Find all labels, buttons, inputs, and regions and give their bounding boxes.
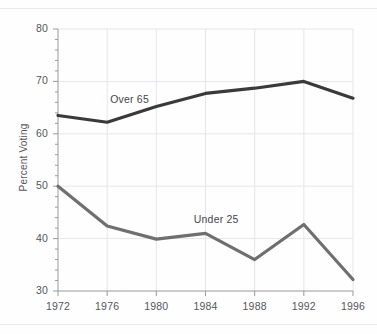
y-tick-label: 40 xyxy=(22,232,48,244)
chart-figure: Percent Voting 304050607080 197219761980… xyxy=(0,0,377,334)
series-inline-label: Under 25 xyxy=(194,213,239,225)
x-tick-label: 1980 xyxy=(136,300,176,312)
x-axis-major-ticks xyxy=(58,291,353,296)
y-tick-label: 80 xyxy=(22,22,48,34)
y-axis-major-ticks xyxy=(53,29,58,291)
y-tick-label: 60 xyxy=(22,127,48,139)
x-tick-label: 1992 xyxy=(284,300,324,312)
y-tick-label: 70 xyxy=(22,74,48,86)
x-tick-label: 1996 xyxy=(333,300,373,312)
plot-area xyxy=(0,0,377,334)
x-tick-label: 1972 xyxy=(38,300,78,312)
series-inline-label: Over 65 xyxy=(110,93,149,105)
x-tick-label: 1976 xyxy=(87,300,127,312)
vertical-gridlines xyxy=(107,29,353,291)
y-tick-label: 30 xyxy=(22,284,48,296)
x-tick-label: 1984 xyxy=(186,300,226,312)
y-tick-label: 50 xyxy=(22,179,48,191)
x-tick-label: 1988 xyxy=(235,300,275,312)
